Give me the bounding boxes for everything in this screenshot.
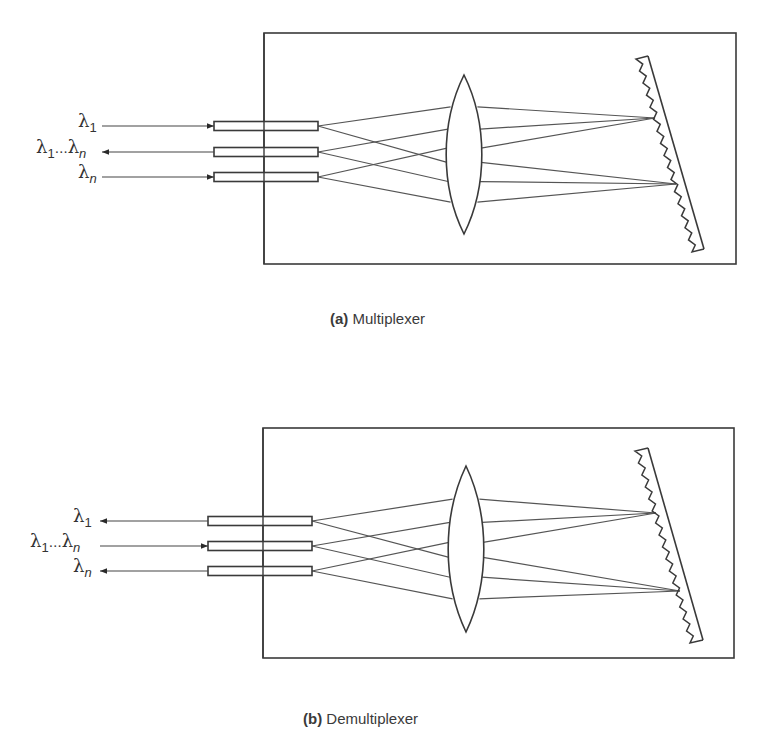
- subscript: 1: [47, 146, 54, 161]
- light-ray: [318, 177, 451, 202]
- light-ray: [318, 107, 451, 126]
- lambda-glyph: λ: [78, 110, 89, 131]
- port-label-lambda-1: λ1: [78, 110, 97, 135]
- caption-text: Multiplexer: [353, 310, 426, 327]
- light-ray: [318, 148, 447, 177]
- light-ray: [477, 184, 676, 202]
- diffraction-grating-back: [648, 448, 703, 640]
- light-ray: [312, 499, 453, 521]
- subscript: n: [84, 565, 91, 580]
- caption-text: Demultiplexer: [326, 710, 418, 727]
- light-ray: [312, 542, 449, 571]
- lambda-glyph: λ: [73, 505, 84, 526]
- light-ray: [479, 591, 680, 599]
- subscript: 1: [41, 540, 48, 555]
- light-ray: [318, 129, 448, 152]
- lambda-glyph: λ: [62, 530, 73, 551]
- multiplexer-panel: [102, 33, 736, 264]
- port-label-lambda-1: λ1: [73, 505, 92, 530]
- lambda-glyph: λ: [36, 136, 47, 157]
- optical-fiber: [208, 517, 312, 526]
- lambda-glyph: λ: [68, 136, 79, 157]
- lambda-glyph: λ: [78, 161, 89, 182]
- light-ray: [481, 118, 655, 148]
- light-ray: [480, 182, 676, 184]
- light-ray: [477, 107, 655, 118]
- light-ray: [312, 546, 450, 577]
- subscript: n: [79, 146, 86, 161]
- light-ray: [480, 118, 655, 129]
- lambda-glyph: λ: [30, 530, 41, 551]
- caption-letter: (a): [330, 310, 348, 327]
- subscript: n: [89, 171, 96, 186]
- subscript: n: [73, 540, 80, 555]
- port-label-lambda-n: λn: [78, 161, 97, 186]
- wdm-diagram: [0, 0, 770, 754]
- optical-fiber: [214, 148, 318, 157]
- ellipsis: …: [55, 141, 68, 156]
- ellipsis: …: [49, 535, 62, 550]
- diffraction-grating-teeth: [635, 448, 703, 643]
- caption-letter: (b): [303, 710, 322, 727]
- diffraction-grating-back: [648, 56, 704, 249]
- light-ray: [482, 577, 680, 591]
- demultiplexer-panel: [100, 428, 734, 658]
- optical-fiber: [214, 173, 318, 182]
- diffraction-grating-teeth: [636, 56, 704, 252]
- port-label-lambda-1-to-n: λ1…λn: [36, 136, 86, 161]
- optical-fiber: [214, 122, 318, 131]
- light-ray: [312, 571, 453, 599]
- light-ray: [481, 162, 676, 184]
- light-ray: [479, 499, 656, 513]
- lambda-glyph: λ: [73, 555, 84, 576]
- lens: [448, 466, 484, 632]
- lens: [446, 75, 482, 234]
- light-ray: [318, 152, 448, 182]
- caption-multiplexer: (a) Multiplexer: [330, 310, 425, 327]
- caption-demultiplexer: (b) Demultiplexer: [303, 710, 418, 727]
- enclosure-box: [263, 428, 734, 658]
- port-label-lambda-1-to-n: λ1…λn: [30, 530, 80, 555]
- light-ray: [483, 557, 680, 591]
- optical-fiber: [208, 567, 312, 576]
- subscript: 1: [89, 120, 96, 135]
- optical-fiber: [208, 542, 312, 551]
- port-label-lambda-n: λn: [73, 555, 92, 580]
- subscript: 1: [84, 515, 91, 530]
